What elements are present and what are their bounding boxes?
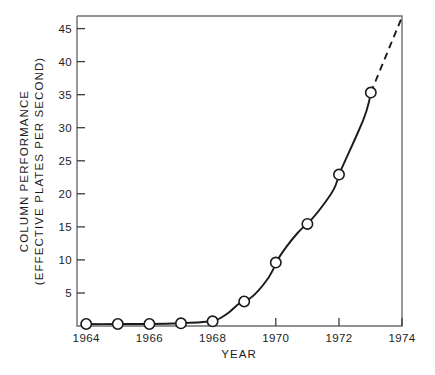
x-tick-label-1966: 1966 xyxy=(136,332,163,344)
y-tick-label-35: 35 xyxy=(58,89,72,101)
y-tick-label-30: 30 xyxy=(58,122,72,134)
y-tick-label-20: 20 xyxy=(58,188,72,200)
y-tick-label-25: 25 xyxy=(58,155,72,167)
data-point-markers xyxy=(81,87,376,329)
data-point-1971[interactable] xyxy=(302,219,312,229)
y-tick-label-45: 45 xyxy=(58,23,72,35)
plot-frame xyxy=(77,16,402,326)
x-tick-label-1972: 1972 xyxy=(325,332,352,344)
y-tick-label-15: 15 xyxy=(58,221,72,233)
y-axis-tick-labels: 5 10 15 20 25 30 35 40 45 xyxy=(58,23,72,299)
data-point-1964[interactable] xyxy=(81,319,91,329)
x-axis-tick-labels: 1964 1966 1968 1970 1972 1974 xyxy=(73,332,416,344)
data-curve xyxy=(86,93,371,324)
data-point-1966[interactable] xyxy=(144,319,154,329)
data-point-1969[interactable] xyxy=(239,296,249,306)
line-chart: 5 10 15 20 25 30 35 40 45 1964 1966 1968… xyxy=(0,0,435,375)
data-point-1965[interactable] xyxy=(113,319,123,329)
y-tick-label-10: 10 xyxy=(58,254,72,266)
chart-container: 5 10 15 20 25 30 35 40 45 1964 1966 1968… xyxy=(0,0,435,375)
data-point-1967[interactable] xyxy=(176,318,186,328)
y-tick-label-40: 40 xyxy=(58,56,72,68)
data-point-1970[interactable] xyxy=(271,257,281,267)
data-point-1973[interactable] xyxy=(366,87,376,97)
y-axis-title-line1: COLUMN PERFORMANCE xyxy=(18,90,30,252)
y-tick-label-5: 5 xyxy=(65,287,72,299)
x-tick-label-1968: 1968 xyxy=(199,332,226,344)
y-axis-ticks xyxy=(77,29,85,293)
data-point-1972[interactable] xyxy=(334,169,344,179)
x-tick-label-1974: 1974 xyxy=(388,332,415,344)
x-axis-title: YEAR xyxy=(221,348,257,360)
x-tick-label-1964: 1964 xyxy=(73,332,100,344)
y-axis-title-line2: (EFFECTIVE PLATES PER SECOND) xyxy=(33,57,45,286)
x-tick-label-1970: 1970 xyxy=(262,332,289,344)
extrapolation-line xyxy=(371,17,402,93)
data-point-1968[interactable] xyxy=(207,316,217,326)
